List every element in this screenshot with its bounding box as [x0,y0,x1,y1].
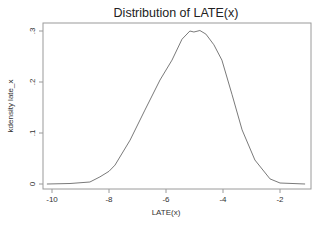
plot-frame [43,23,311,189]
density-chart: Distribution of LATE(x) 0.1.2.3 -10-8-6-… [0,0,325,225]
x-tick-label: -6 [162,195,170,204]
x-tick-label: -2 [276,195,284,204]
x-tick-label: -8 [105,195,113,204]
x-tick-label: -4 [219,195,227,204]
y-axis-label: kdensity late_x [6,80,15,133]
y-tick-label: .3 [28,27,37,34]
y-tick-label: .2 [28,78,37,85]
chart-title: Distribution of LATE(x) [114,6,239,20]
x-tick-label: -10 [46,195,58,204]
y-tick-label: 0 [28,181,37,186]
x-axis-label: LATE(x) [152,208,181,217]
y-tick-label: .1 [28,129,37,136]
